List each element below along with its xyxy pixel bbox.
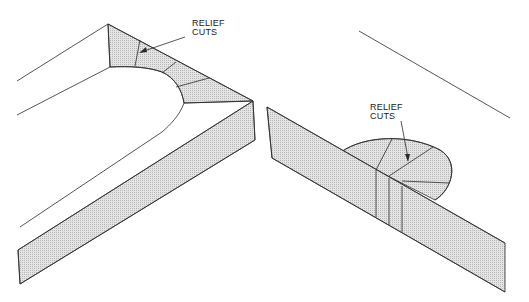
left-figure bbox=[17, 24, 255, 284]
left-relief-cuts-label: RELIEF CUTS bbox=[192, 19, 225, 37]
right-relief-cuts-label: RELIEF CUTS bbox=[370, 103, 403, 121]
right-strip bbox=[267, 107, 505, 292]
left-label-line2: CUTS bbox=[192, 28, 225, 37]
right-figure bbox=[267, 31, 510, 292]
right-label-line2: CUTS bbox=[370, 112, 403, 121]
diagram-canvas bbox=[0, 0, 529, 302]
left-front-face bbox=[18, 101, 255, 284]
